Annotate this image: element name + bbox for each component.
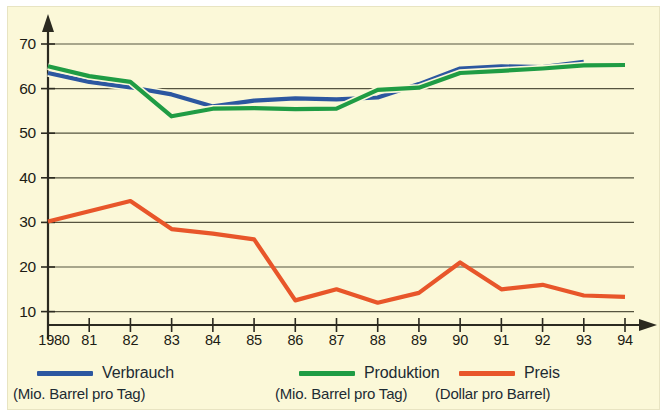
series-line-preis: [48, 201, 625, 303]
x-axis-tick-label: 85: [241, 332, 267, 348]
x-axis-tick-label: 91: [488, 332, 514, 348]
y-axis-tick-label: 20: [2, 258, 36, 276]
legend-item-preis: Preis (Dollar pro Barrel): [459, 364, 560, 402]
y-axis-tick-label: 10: [2, 303, 36, 321]
y-axis-tick-label: 60: [2, 80, 36, 98]
x-axis-tick-label: 83: [159, 332, 185, 348]
x-axis-tick-label: 84: [200, 332, 226, 348]
legend-label: Produktion: [364, 364, 440, 382]
legend-label: Verbrauch: [102, 364, 174, 382]
x-axis-tick-label: 81: [76, 332, 102, 348]
x-axis-tick-label: 86: [282, 332, 308, 348]
x-axis-arrow-icon: [639, 319, 657, 331]
y-axis-tick-label: 40: [2, 169, 36, 187]
legend-label: Preis: [524, 364, 560, 382]
legend-item-verbrauch: Verbrauch (Mio. Barrel pro Tag): [37, 364, 174, 402]
y-axis-tick-label: 50: [2, 124, 36, 142]
x-axis-tick-label: 94: [612, 332, 638, 348]
legend-item-produktion: Produktion (Mio. Barrel pro Tag): [299, 364, 440, 402]
x-axis-tick-label: 1980: [31, 332, 77, 348]
chart-legend: Verbrauch (Mio. Barrel pro Tag) Produkti…: [7, 360, 660, 410]
x-axis-tick-label: 90: [447, 332, 473, 348]
y-axis-tick-label: 70: [2, 35, 36, 53]
x-axis-tick-label: 89: [406, 332, 432, 348]
x-axis-tick-label: 82: [117, 332, 143, 348]
y-axis-arrow-icon: [42, 14, 54, 32]
legend-sublabel: (Dollar pro Barrel): [435, 385, 560, 402]
x-axis-tick-label: 87: [324, 332, 350, 348]
line-swatch-orange-icon: [459, 371, 515, 376]
chart-plot-area: [0, 0, 667, 420]
line-swatch-green-icon: [299, 371, 355, 376]
x-axis-tick-label: 93: [571, 332, 597, 348]
chart-figure: 10203040506070 1980818283848586878889909…: [0, 0, 667, 420]
legend-sublabel: (Mio. Barrel pro Tag): [275, 385, 440, 402]
line-swatch-blue-icon: [37, 371, 93, 376]
x-axis-tick-label: 92: [530, 332, 556, 348]
x-axis-tick-label: 88: [365, 332, 391, 348]
y-axis-tick-label: 30: [2, 213, 36, 231]
legend-sublabel: (Mio. Barrel pro Tag): [13, 385, 174, 402]
